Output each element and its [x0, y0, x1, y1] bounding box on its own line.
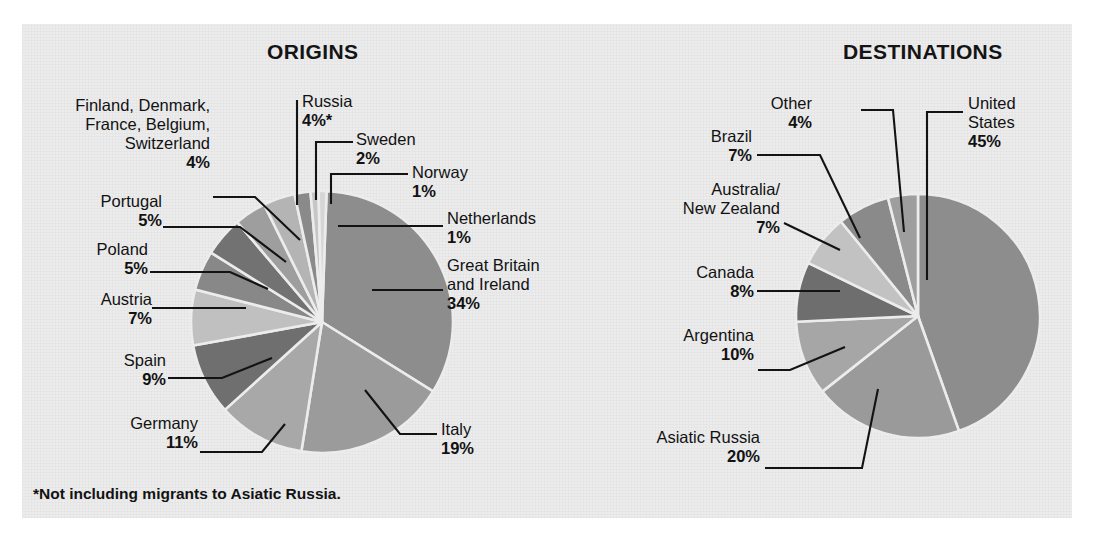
label-name-line: and Ireland [447, 275, 540, 294]
origins-label-austria: Austria 7% [22, 290, 152, 328]
label-percent: 7% [640, 146, 752, 165]
label-name-line: Switzerland [12, 134, 210, 153]
label-name-line: Australia/ [610, 180, 780, 199]
label-name-line: Russia [302, 92, 352, 111]
label-name-line: Poland [22, 240, 148, 259]
label-name-line: Argentina [600, 326, 754, 345]
destinations-label-asiatic-russia: Asiatic Russia 20% [570, 428, 760, 466]
label-percent: 5% [22, 259, 148, 278]
destinations-pie [796, 194, 1040, 438]
label-percent: 34% [447, 294, 540, 313]
label-percent: 2% [356, 149, 416, 168]
label-percent: 5% [22, 211, 162, 230]
destinations-label-united-states: United States 45% [968, 94, 1016, 151]
label-name-line: Austria [22, 290, 152, 309]
origins-label-norway: Norway 1% [412, 163, 468, 201]
origins-label-netherlands: Netherlands 1% [447, 209, 536, 247]
destinations-label-australia-new-zealand: Australia/ New Zealand 7% [610, 180, 780, 237]
label-name-line: Italy [441, 420, 474, 439]
origins-label-russia: Russia 4%* [302, 92, 352, 130]
label-percent: 10% [600, 345, 754, 364]
destinations-label-argentina: Argentina 10% [600, 326, 754, 364]
migration-pie-figure: ORIGINS DESTINATIONS Finland, Denmark, F… [0, 0, 1100, 540]
label-percent: 9% [40, 370, 166, 389]
origins-label-poland: Poland 5% [22, 240, 148, 278]
label-percent: 4%* [302, 111, 352, 130]
origins-label-finland-group: Finland, Denmark, France, Belgium, Switz… [12, 96, 210, 172]
label-percent: 1% [447, 228, 536, 247]
origins-label-great-britain-ireland: Great Britain and Ireland 34% [447, 256, 540, 313]
label-name-line: New Zealand [610, 199, 780, 218]
pies-svg [0, 0, 1100, 540]
label-name-line: Netherlands [447, 209, 536, 228]
origins-pie [191, 191, 453, 453]
label-percent: 19% [441, 439, 474, 458]
label-name-line: Finland, Denmark, [12, 96, 210, 115]
label-name-line: Sweden [356, 130, 416, 149]
origins-label-spain: Spain 9% [40, 351, 166, 389]
label-percent: 7% [610, 218, 780, 237]
label-percent: 1% [412, 182, 468, 201]
origins-label-sweden: Sweden 2% [356, 130, 416, 168]
footnote-text: *Not including migrants to Asiatic Russi… [33, 485, 341, 503]
label-percent: 7% [22, 309, 152, 328]
origins-label-portugal: Portugal 5% [22, 192, 162, 230]
origins-label-italy: Italy 19% [441, 420, 474, 458]
origins-label-germany: Germany 11% [40, 414, 198, 452]
label-name-line: Great Britain [447, 256, 540, 275]
label-name-line: States [968, 113, 1016, 132]
label-name-line: Brazil [640, 127, 752, 146]
label-name-line: Other [700, 94, 812, 113]
label-percent: 45% [968, 132, 1016, 151]
label-name-line: Canada [620, 263, 754, 282]
label-name-line: Norway [412, 163, 468, 182]
label-name-line: France, Belgium, [12, 115, 210, 134]
destinations-label-brazil: Brazil 7% [640, 127, 752, 165]
label-name-line: Asiatic Russia [570, 428, 760, 447]
label-percent: 4% [12, 153, 210, 172]
label-percent: 20% [570, 447, 760, 466]
destinations-label-canada: Canada 8% [620, 263, 754, 301]
label-name-line: United [968, 94, 1016, 113]
label-name-line: Germany [40, 414, 198, 433]
label-name-line: Spain [40, 351, 166, 370]
label-percent: 11% [40, 433, 198, 452]
label-percent: 8% [620, 282, 754, 301]
label-name-line: Portugal [22, 192, 162, 211]
